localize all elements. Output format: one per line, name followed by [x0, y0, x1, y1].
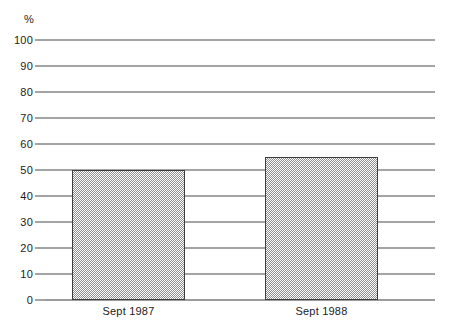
- y-axis-tick-80: [35, 92, 45, 93]
- bar-sept-1987: [72, 170, 185, 300]
- y-axis-tick-40: [35, 196, 45, 197]
- y-axis-label-100: 100: [0, 35, 33, 46]
- y-axis-tick-20: [35, 248, 45, 249]
- y-axis-label-30: 30: [0, 217, 33, 228]
- gridline-80: [45, 92, 435, 93]
- bar-sept-1988: [265, 157, 378, 300]
- y-axis-label-90: 90: [0, 61, 33, 72]
- y-axis-tick-0: [35, 300, 45, 301]
- gridline-60: [45, 144, 435, 145]
- gridline-100: [45, 40, 435, 41]
- y-axis-tick-30: [35, 222, 45, 223]
- x-axis-label-sept-1987: Sept 1987: [72, 306, 185, 317]
- y-axis-label-20: 20: [0, 243, 33, 254]
- gridline-90: [45, 66, 435, 67]
- bar-chart: % 1009080706050403020100 Sept 1987Sept 1…: [0, 0, 453, 332]
- y-axis-label-0: 0: [0, 295, 33, 306]
- x-axis-label-sept-1988: Sept 1988: [265, 306, 378, 317]
- y-axis-tick-90: [35, 66, 45, 67]
- plot-area: 1009080706050403020100: [45, 40, 435, 300]
- y-axis-tick-50: [35, 170, 45, 171]
- y-axis-tick-10: [35, 274, 45, 275]
- y-axis-tick-100: [35, 40, 45, 41]
- y-axis-label-60: 60: [0, 139, 33, 150]
- y-axis-label-50: 50: [0, 165, 33, 176]
- y-axis-label-80: 80: [0, 87, 33, 98]
- y-axis-label-70: 70: [0, 113, 33, 124]
- y-axis-tick-70: [35, 118, 45, 119]
- y-axis-label-10: 10: [0, 269, 33, 280]
- gridline-70: [45, 118, 435, 119]
- y-axis-tick-60: [35, 144, 45, 145]
- y-axis-label-40: 40: [0, 191, 33, 202]
- y-axis-unit-label: %: [24, 14, 34, 25]
